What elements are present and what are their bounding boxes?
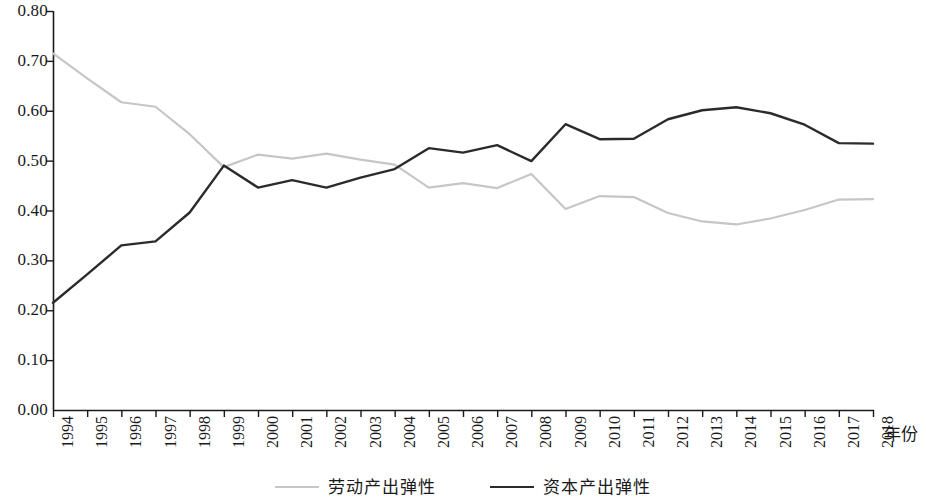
- legend-label-labor: 劳动产出弹性: [328, 478, 436, 497]
- legend-item-capital: 资本产出弹性: [490, 478, 651, 497]
- series-line-capital: [53, 107, 873, 303]
- legend-label-capital: 资本产出弹性: [543, 478, 651, 497]
- legend-swatch-labor-line-icon: [275, 486, 319, 488]
- chart-legend: 劳动产出弹性 资本产出弹性: [0, 472, 926, 502]
- axes: [46, 11, 874, 417]
- legend-item-labor: 劳动产出弹性: [275, 478, 436, 497]
- plot-area: [0, 0, 926, 502]
- series-line-labor: [53, 53, 873, 224]
- line-chart: 0.800.700.600.500.400.300.200.100.00 199…: [0, 0, 926, 502]
- legend-swatch-capital-line-icon: [490, 486, 534, 488]
- data-series-layer: [53, 53, 873, 302]
- y-axis-ticks: [46, 12, 53, 361]
